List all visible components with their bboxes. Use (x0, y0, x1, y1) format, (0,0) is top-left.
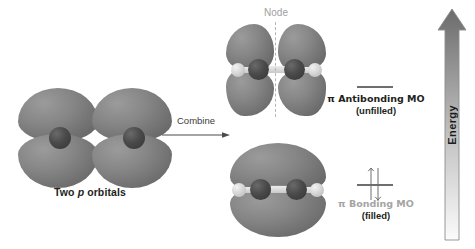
antibonding-atom-left (248, 59, 269, 80)
antibonding-atom-outer-left (231, 63, 245, 77)
bonding-mo-label: π Bonding MO (filled) (318, 198, 434, 222)
node-label: Node (253, 7, 299, 18)
two-p-orbitals-group: Two p orbitals (0, 0, 180, 249)
bonding-atom-right (286, 179, 307, 200)
p-orbital-right-atom (123, 127, 145, 149)
bonding-bond-center (271, 186, 287, 193)
bonding-mo-label-line2: (filled) (318, 210, 434, 222)
figure-canvas: Two p orbitals Combine Node (0, 0, 475, 249)
combine-label: Combine (160, 115, 232, 126)
bonding-electron-pair-icon (360, 166, 390, 202)
bonding-orbital-diagram (226, 143, 330, 235)
antibonding-mo-label-line1: π Antibonding MO (318, 93, 434, 105)
bonding-atom-left (250, 179, 271, 200)
antibonding-mo-label: π Antibonding MO (unfilled) (318, 93, 434, 117)
caption-prefix: Two (54, 186, 78, 198)
caption-suffix: orbitals (84, 186, 126, 198)
antibonding-energy-level (357, 86, 393, 88)
p-orbital-left (18, 88, 98, 188)
antibonding-mo-label-line2: (unfilled) (318, 105, 434, 117)
antibonding-atom-outer-right (308, 63, 322, 77)
two-p-orbitals-caption: Two p orbitals (10, 186, 170, 198)
combine-group: Combine (160, 115, 232, 145)
antibonding-atom-right (284, 59, 305, 80)
energy-axis-arrow-icon (437, 8, 467, 241)
antibonding-bond-center (269, 66, 285, 73)
bonding-atom-outer-left (232, 183, 246, 197)
bonding-atom-outer-right (310, 183, 324, 197)
p-orbital-left-atom (49, 127, 71, 149)
bonding-mo-label-line1: π Bonding MO (318, 198, 434, 210)
right-arrow-icon (162, 132, 230, 140)
node-dashed-line (275, 22, 276, 117)
antibonding-orbital-diagram (226, 24, 326, 116)
